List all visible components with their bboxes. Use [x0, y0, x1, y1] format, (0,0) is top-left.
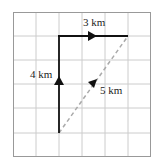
east-arrow-icon: [88, 31, 97, 41]
grid: [13, 12, 151, 157]
grid-diagram: [0, 0, 160, 165]
resultant-label: 5 km: [100, 85, 122, 96]
north-arrow-icon: [54, 76, 64, 85]
east-label: 3 km: [83, 17, 105, 28]
north-label: 4 km: [30, 69, 52, 80]
